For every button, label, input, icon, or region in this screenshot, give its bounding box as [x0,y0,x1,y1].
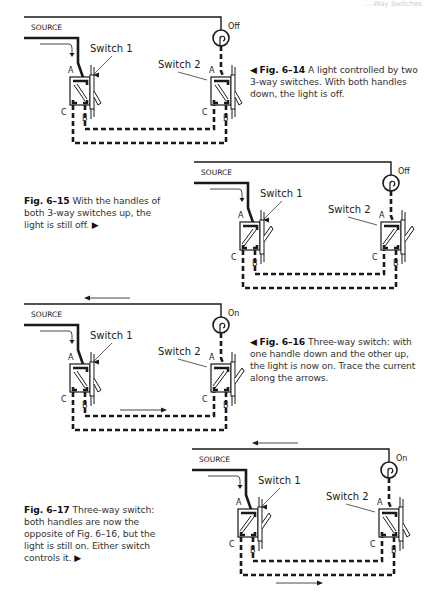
switch-2-handle-up [405,226,414,242]
switch-1-plate [90,362,94,396]
figure-6-16-caption: ◀ Fig. 6–16 Three-way switch: with one h… [250,336,425,384]
light-state-label: Off [398,167,410,176]
switch-1-plate [90,75,94,109]
pointer-right-icon: ▶ [71,553,81,563]
switch-2-bottom-lead [232,109,235,119]
current-in-arrow [40,331,72,341]
switch1-pointer-line [262,488,280,506]
pointer-right-icon: ▶ [89,220,99,230]
switch-1-label-c: C [61,108,67,117]
switch-1-bottom-lead [261,254,264,264]
switch-2-label-a: A [209,353,215,362]
switch1-pointer-line [264,201,282,219]
switch2-pointer-line [178,359,207,367]
current-in-arrow [210,189,242,199]
switch-1-handle-down [94,91,101,105]
switch-2-handle-down [403,523,410,537]
switch-1-label-a: A [68,353,74,362]
switch-1-top-lead [91,352,94,362]
figure-6-15-caption: Fig. 6–15 With the handles of both 3-way… [24,195,169,231]
figure-number: Fig. 6–14 [260,64,306,75]
switch-1-label-a: A [236,498,242,507]
switch-2-top-lead [232,65,235,75]
switch-2-top-lead [400,497,403,507]
traveler-wire-inner [255,250,384,274]
light-state-label: On [396,454,407,463]
figure-6-14-caption: ◀ Fig. 6–14 A light controlled by two 3-… [250,64,425,100]
switch1-label: Switch 1 [90,330,133,341]
light-bulb-icon [381,462,397,478]
switch1-pointer-line [94,343,112,361]
traveler-wire-inner [253,537,382,561]
switch-2-label-a: A [377,498,383,507]
switch-2-label-a: A [379,211,385,220]
source-hot-wire [194,183,255,228]
switch-2-bottom-lead [402,254,405,264]
switch-1-label-c: C [231,253,237,262]
switch-2-bottom-lead [232,396,235,406]
return-current-arrowhead-icon [252,441,258,446]
light-state-label: On [228,309,239,318]
light-bulb-icon [213,317,229,333]
light-bulb-icon [213,30,229,46]
switch-1-plate [258,507,262,541]
switch-1-top-lead [91,65,94,75]
pointer-left-icon: ◀ [250,65,260,75]
switch-2-handle-down [235,91,242,105]
current-in-arrowhead-icon [240,198,245,202]
switch-1-label-c: C [61,395,67,404]
current-in-arrowhead-icon [70,53,75,57]
light-state-label: Off [228,22,240,31]
switch-2-label-c: C [202,395,208,404]
return-current-arrowhead-icon [84,296,90,301]
switch-2-label-c: C [202,108,208,117]
source-hot-wire [24,38,85,83]
source-hot-wire [24,325,85,370]
switch2-pointer-line [346,504,375,512]
traveler-wire-inner [85,392,214,416]
switch-2-plate [231,362,235,396]
switch-1-top-lead [261,210,264,220]
switch2-label: Switch 2 [326,491,369,502]
source-label: SOURCE [31,310,62,319]
current-in-arrowhead-icon [238,485,243,489]
switch-2-label-c: C [370,540,376,549]
traveler-current-arrowhead-icon [161,408,167,413]
switch-2-top-lead [402,210,405,220]
switch-2-plate [401,220,405,254]
switch2-pointer-line [178,72,207,80]
switch-2-top-lead [232,352,235,362]
pointer-left-icon: ◀ [250,337,260,347]
switch-1-handle-up [262,513,271,529]
switch1-pointer-line [94,56,112,74]
switch1-label: Switch 1 [258,475,301,486]
switch-1-plate [260,220,264,254]
light-bulb-icon [383,175,399,191]
switch-1-bottom-lead [91,109,94,119]
figure-number: Fig. 6–15 [24,195,70,206]
source-label: SOURCE [31,23,62,32]
switch-1-handle-up [264,226,273,242]
source-hot-wire [192,470,253,515]
current-in-arrow [40,44,72,54]
switch1-label: Switch 1 [260,188,303,199]
current-in-arrow [208,476,240,486]
figure-number: Fig. 6–16 [260,336,306,347]
figure-6-17-caption: Fig. 6–17 Three-way switch: both handles… [24,504,174,564]
switch-1-label-c: C [229,540,235,549]
switch-1-bottom-lead [259,541,262,551]
switch2-label: Switch 2 [158,59,201,70]
switch-2-bottom-lead [400,541,403,551]
switch-2-label-c: C [372,253,378,262]
switch-1-label-a: A [238,211,244,220]
switch2-label: Switch 2 [328,204,371,215]
switch-2-plate [399,507,403,541]
traveler-current-arrowhead-icon [317,581,323,586]
switch-1-label-a: A [68,66,74,75]
switch2-label: Switch 2 [158,346,201,357]
switch-2-label-a: A [209,66,215,75]
figure-number: Fig. 6–17 [24,504,70,515]
switch-1-handle-down [94,378,101,392]
switch-2-handle-up [235,368,244,384]
source-label: SOURCE [199,455,230,464]
